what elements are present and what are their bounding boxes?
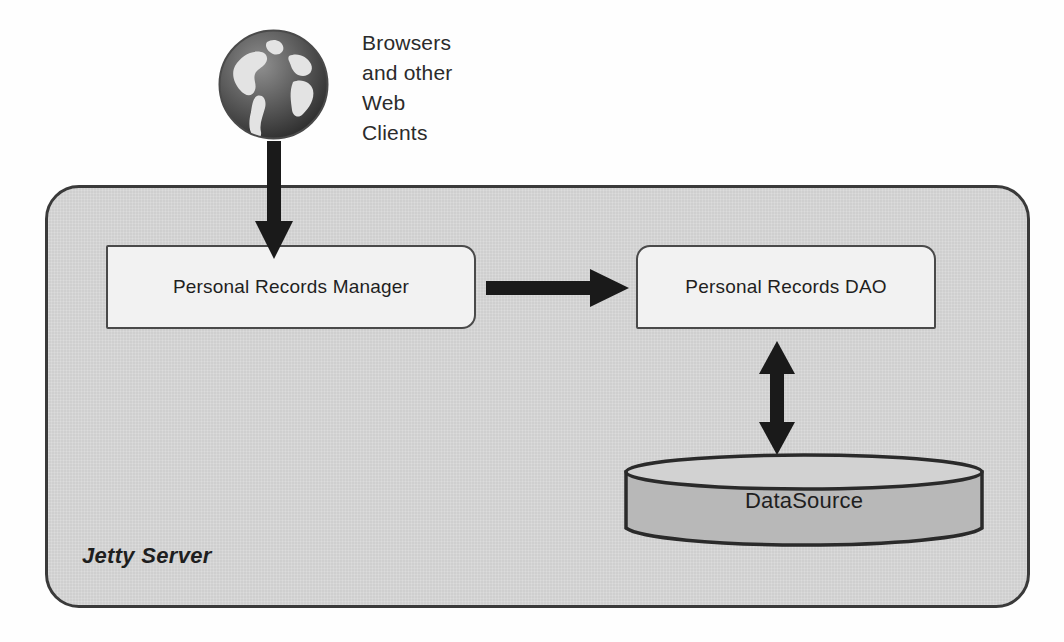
client-label-line-4: Clients	[362, 118, 542, 148]
personal-records-manager-label: Personal Records Manager	[173, 276, 409, 298]
globe-icon	[215, 26, 332, 143]
client-label: Browsers and other Web Clients	[362, 28, 542, 148]
diagram-canvas: Browsers and other Web Clients Jetty Ser…	[0, 0, 1064, 642]
personal-records-dao-label: Personal Records DAO	[685, 276, 886, 298]
arrow-client-to-manager-icon	[252, 141, 296, 263]
personal-records-dao-box[interactable]: Personal Records DAO	[636, 245, 936, 329]
jetty-server-label: Jetty Server	[82, 543, 212, 569]
client-label-line-3: Web	[362, 88, 542, 118]
arrow-manager-to-dao-icon	[486, 266, 632, 310]
datasource-cylinder[interactable]	[622, 452, 986, 550]
client-label-line-2: and other	[362, 58, 542, 88]
arrow-dao-to-datasource-icon	[755, 340, 799, 456]
client-label-line-1: Browsers	[362, 28, 542, 58]
